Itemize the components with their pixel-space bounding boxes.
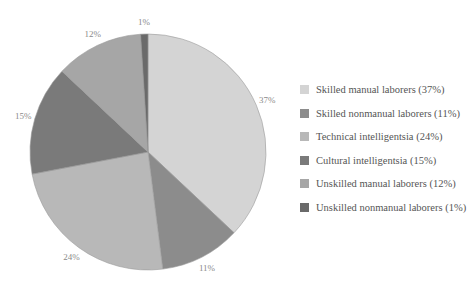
pie-chart-svg: 37%11%24%15%12%1% [0, 0, 300, 291]
legend: Skilled manual laborers (37%) Skilled no… [300, 78, 469, 219]
slice-percent-label: 37% [259, 95, 276, 105]
legend-label: Unskilled manual laborers (12%) [316, 178, 456, 189]
legend-swatch-icon [300, 109, 309, 118]
slice-percent-label: 11% [199, 263, 216, 273]
slice-percent-label: 12% [84, 29, 101, 39]
legend-item: Skilled nonmanual laborers (11%) [300, 102, 469, 126]
legend-swatch-icon [300, 132, 309, 141]
legend-label: Cultural intelligentsia (15%) [316, 155, 436, 166]
legend-item: Unskilled nonmanual laborers (1%) [300, 196, 469, 220]
slice-percent-label: 1% [138, 17, 151, 27]
legend-item: Cultural intelligentsia (15%) [300, 149, 469, 173]
slice-percent-label: 15% [15, 111, 32, 121]
legend-item: Skilled manual laborers (37%) [300, 78, 469, 102]
legend-label: Skilled nonmanual laborers (11%) [316, 108, 460, 119]
legend-item: Unskilled manual laborers (12%) [300, 172, 469, 196]
legend-label: Skilled manual laborers (37%) [316, 84, 445, 95]
legend-swatch-icon [300, 203, 309, 212]
pie-chart: 37%11%24%15%12%1% [0, 0, 300, 291]
legend-swatch-icon [300, 85, 309, 94]
legend-label: Technical intelligentsia (24%) [316, 131, 442, 142]
legend-item: Technical intelligentsia (24%) [300, 125, 469, 149]
legend-swatch-icon [300, 156, 309, 165]
legend-label: Unskilled nonmanual laborers (1%) [316, 202, 466, 213]
slice-percent-label: 24% [63, 252, 80, 262]
legend-swatch-icon [300, 179, 309, 188]
